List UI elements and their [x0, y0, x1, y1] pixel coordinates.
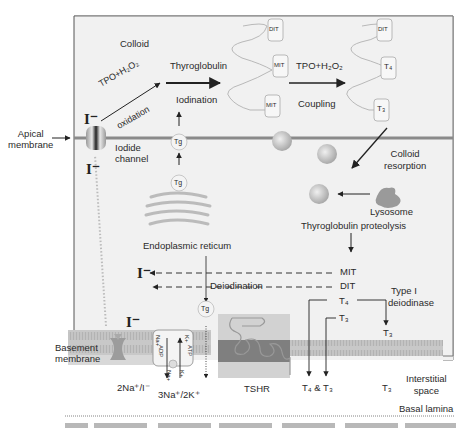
iodide-channel [86, 126, 106, 150]
pump-na-out: Na+ [166, 370, 172, 381]
chain-left-1: MIT [274, 62, 284, 68]
er-label: Endoplasmic reticum [143, 240, 231, 251]
chain-left-2: MIT [266, 102, 276, 108]
resorption-line2: resorption [384, 160, 426, 172]
t3-deiodinase-label: T₃ [383, 327, 393, 338]
deiodinase-line2: deiodinase [388, 297, 434, 309]
proteolysis-label: Thyroglobulin proteolysis [301, 220, 406, 231]
na-k-atpase-label: 3Na⁺/2K⁺ [158, 389, 200, 400]
interstitial-space-label: Interstitial space [406, 373, 447, 397]
apical-label-line2: membrane [8, 139, 53, 150]
iodination-label: Iodination [176, 94, 217, 105]
lysosome-label: Lysosome [370, 206, 413, 217]
tg-apical: Tg [174, 138, 182, 145]
type1-deiodinase-label: Type I deiodinase [388, 285, 434, 309]
mit-label: MIT [340, 266, 356, 277]
t4-cell-label: T₄ [339, 295, 349, 306]
interstitial-line1: Interstitial [406, 373, 447, 385]
tg-basal: Tg [201, 305, 209, 312]
colloid-resorption-label: Colloid resorption [384, 148, 426, 172]
coupling-label: Coupling [298, 98, 336, 109]
apical-membrane-label: Apical membrane [8, 128, 53, 150]
iodide-deiodinated: I⁻ [137, 264, 151, 282]
apical-label-line1: Apical [8, 128, 53, 139]
t3-cell-label: T₃ [339, 312, 349, 323]
basal-lamina-label: Basal lamina [399, 403, 453, 414]
basement-line2: membrane [55, 353, 100, 364]
interstitial-line2: space [406, 385, 447, 397]
iodide-apical: I⁻ [84, 110, 98, 128]
iodide-channel-line2: channel [115, 153, 148, 164]
iodide-cytosol: I⁻ [86, 160, 100, 178]
tg-er: Tg [174, 179, 182, 186]
pump-atp: ATP [187, 345, 193, 356]
basement-membrane-label: Basement membrane [55, 342, 100, 364]
pump-adp: ADP [158, 345, 164, 357]
deiodinase-line1: Type I [388, 285, 434, 297]
chain-left-0: DIT [269, 26, 279, 32]
diagram-canvas [0, 0, 467, 437]
tshr-label: TSHR [244, 383, 270, 394]
chain-right-0: DIT [378, 26, 388, 32]
dit-label: DIT [340, 280, 355, 291]
iodide-channel-label: Iodide channel [115, 142, 148, 164]
deiodination-label: Deiodination [210, 280, 263, 291]
colloid-label: Colloid [120, 38, 149, 49]
basement-line1: Basement [55, 342, 100, 353]
iodide-basal: I⁻ [126, 313, 140, 331]
pump-k-in: K+ [184, 335, 190, 343]
coupling-top-label: TPO+H₂O₂ [296, 60, 343, 71]
resorption-line1: Colloid [384, 148, 426, 160]
thyroglobulin-label: Thyroglobulin [170, 60, 227, 71]
pump-k-out: K+ [179, 370, 185, 378]
tshr-receptor [218, 314, 290, 378]
na-i-symporter-label: 2Na⁺/I⁻ [117, 382, 150, 393]
t3-interstitial-label: T₃ [382, 382, 392, 393]
t4-t3-label: T₄ & T₃ [302, 382, 333, 393]
iodide-channel-line1: Iodide [115, 142, 148, 153]
chain-right-2: T₃ [377, 104, 385, 113]
chain-right-1: T₄ [384, 62, 392, 71]
basal-lamina-strips [65, 423, 456, 428]
